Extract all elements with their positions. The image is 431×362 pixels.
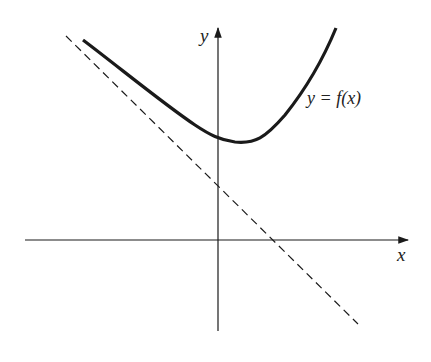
graph-figure: y x y = f(x): [0, 0, 431, 362]
x-axis-label: x: [396, 244, 406, 265]
y-axis-label: y: [198, 25, 209, 46]
function-curve: [83, 28, 336, 142]
curve-label: y = f(x): [305, 88, 361, 109]
slant-asymptote-line: [66, 36, 358, 324]
